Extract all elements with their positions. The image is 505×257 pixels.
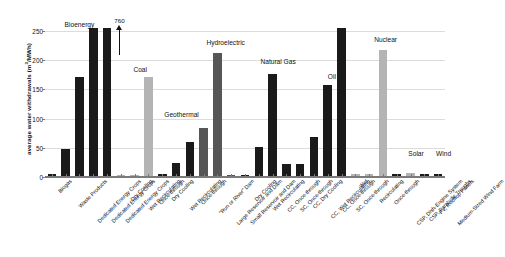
bar <box>310 137 319 176</box>
x-axis-tick-mark <box>397 174 398 177</box>
x-axis-tick-mark <box>369 174 370 177</box>
x-axis-tick-mark <box>52 174 53 177</box>
plot-area: 050100150200250BioenergyCoalGeothermalHy… <box>45 22 445 177</box>
bar <box>199 128 208 176</box>
x-axis-tick-mark <box>176 174 177 177</box>
bar <box>255 147 264 176</box>
y-axis-label: average water withdrawals (m3/MWh) <box>24 19 32 179</box>
group-label: Bioenergy <box>65 21 95 28</box>
group-label: Coal <box>133 66 147 73</box>
y-axis-tick-mark <box>42 60 45 61</box>
y-axis-tick-label: 200 <box>3 57 43 64</box>
group-label: Solar <box>408 150 423 157</box>
y-axis-tick-label: 250 <box>3 27 43 34</box>
x-axis-tick-mark <box>135 174 136 177</box>
x-axis-tick-mark <box>79 174 80 177</box>
y-axis-tick-label: 100 <box>3 115 43 122</box>
x-axis-tick-labels: BiogasWaste ProductsDedicated Energy Cro… <box>45 178 445 257</box>
group-label: Geothermal <box>164 111 198 118</box>
y-axis-tick-label: 50 <box>3 144 43 151</box>
group-label: Nuclear <box>374 36 397 43</box>
bar <box>186 142 195 176</box>
y-axis-tick-mark <box>42 31 45 32</box>
value-annotation: 760 <box>114 17 124 24</box>
x-axis-tick-mark <box>121 174 122 177</box>
y-axis-tick-mark <box>42 148 45 149</box>
y-axis-label-text: average water withdrawals (m <box>25 65 32 156</box>
x-axis-tick-mark <box>424 174 425 177</box>
x-axis-tick-mark <box>355 174 356 177</box>
x-axis-tick-mark <box>148 174 149 177</box>
x-axis-tick-mark <box>438 174 439 177</box>
x-axis-tick-mark <box>162 174 163 177</box>
x-axis-tick-mark <box>107 174 108 177</box>
x-axis-tick-label: Biogas <box>57 178 73 194</box>
x-axis-tick-mark <box>217 174 218 177</box>
bar <box>268 74 277 176</box>
x-axis-tick-mark <box>328 174 329 177</box>
x-axis-tick-mark <box>66 174 67 177</box>
x-axis-tick-mark <box>245 174 246 177</box>
bar <box>213 53 222 176</box>
x-axis-tick-mark <box>286 174 287 177</box>
group-label: Hydroelectric <box>206 39 244 46</box>
annotation-arrow-shaft <box>119 28 120 55</box>
annotation-arrow-head <box>116 25 122 30</box>
x-axis-tick-mark <box>273 174 274 177</box>
y-axis-tick-mark <box>42 89 45 90</box>
bar <box>103 28 112 176</box>
x-axis-tick-mark <box>204 174 205 177</box>
x-axis-tick-mark <box>259 174 260 177</box>
x-axis-tick-mark <box>383 174 384 177</box>
bar <box>337 28 346 176</box>
bar <box>61 149 70 176</box>
x-axis-tick-mark <box>231 174 232 177</box>
y-axis-tick-label: 150 <box>3 86 43 93</box>
x-axis-tick-mark <box>342 174 343 177</box>
x-axis-tick-mark <box>314 174 315 177</box>
bar <box>379 50 388 176</box>
bar <box>75 77 84 176</box>
x-axis-tick-mark <box>190 174 191 177</box>
x-axis-tick-mark <box>93 174 94 177</box>
group-label: Natural Gas <box>261 58 296 65</box>
x-axis-tick-label: Waste Products <box>77 178 108 209</box>
x-axis-tick-label: CSP, Dish-Engine System <box>415 178 463 226</box>
group-label: Wind <box>436 150 451 157</box>
x-axis-tick-mark <box>300 174 301 177</box>
bar <box>89 28 98 176</box>
x-axis-tick-mark <box>411 174 412 177</box>
y-axis-tick-label: 0 <box>3 174 43 181</box>
bar <box>323 85 332 176</box>
group-label: Oil <box>328 73 336 80</box>
y-axis-tick-mark <box>42 119 45 120</box>
bar <box>144 77 153 176</box>
